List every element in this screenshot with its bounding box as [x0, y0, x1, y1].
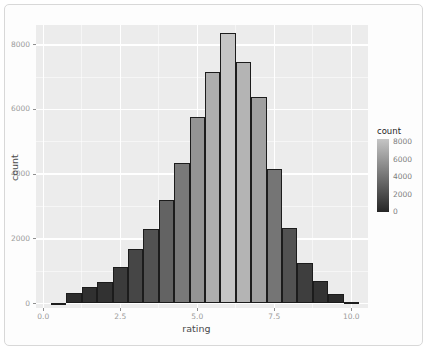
histogram-bar — [328, 294, 343, 303]
histogram-bar — [267, 169, 282, 303]
histogram-bar — [143, 229, 158, 303]
y-tick-label: 6000 — [4, 105, 30, 113]
plot-panel — [36, 25, 368, 308]
histogram-bar — [205, 72, 220, 304]
legend-tick-label: 6000 — [393, 156, 412, 164]
x-tick-mark — [351, 308, 352, 311]
legend-tick-label: 0 — [393, 208, 398, 216]
y-tick-mark — [33, 303, 36, 304]
x-tick-mark — [120, 308, 121, 311]
x-tick-label: 7.5 — [268, 313, 280, 321]
histogram-bar — [82, 287, 97, 304]
y-tick-mark — [33, 109, 36, 110]
histogram-bar — [51, 303, 66, 305]
y-tick-mark — [33, 238, 36, 239]
histogram-bar — [282, 228, 297, 303]
major-gridline — [43, 25, 44, 308]
x-tick-label: 2.5 — [114, 313, 126, 321]
histogram-bar — [236, 62, 251, 304]
major-gridline — [36, 109, 368, 110]
histogram-bar — [66, 293, 81, 304]
legend-title: count — [377, 126, 401, 136]
legend-tick-label: 2000 — [393, 191, 412, 199]
x-tick-mark — [197, 308, 198, 311]
major-gridline — [351, 25, 352, 308]
histogram-bar — [159, 200, 174, 303]
x-tick-mark — [274, 308, 275, 311]
histogram-bar — [113, 267, 128, 304]
legend-gradient-bar — [377, 139, 389, 212]
x-tick-label: 0.0 — [37, 313, 49, 321]
screenshot-root: { "chart_data": { "type": "bar", "subtyp… — [0, 0, 427, 350]
histogram-bar — [220, 33, 235, 303]
y-tick-label: 8000 — [4, 41, 30, 49]
histogram-bar — [128, 249, 143, 304]
legend-tick-label: 8000 — [393, 138, 412, 146]
major-gridline — [120, 25, 121, 308]
y-tick-mark — [33, 44, 36, 45]
legend-tick-label: 4000 — [393, 173, 412, 181]
x-tick-label: 10.0 — [343, 313, 360, 321]
y-axis-title: count — [9, 154, 20, 181]
histogram-bar — [251, 97, 266, 304]
histogram-bar — [313, 281, 328, 303]
histogram-bar — [344, 302, 359, 304]
y-tick-label: 0 — [4, 300, 30, 308]
histogram-bar — [97, 282, 112, 303]
y-tick-mark — [33, 174, 36, 175]
minor-gridline — [36, 77, 368, 78]
histogram-bar — [174, 163, 189, 303]
histogram-bar — [297, 263, 312, 303]
y-tick-label: 2000 — [4, 235, 30, 243]
minor-gridline — [81, 25, 82, 308]
x-tick-label: 5.0 — [191, 313, 203, 321]
x-axis-title: rating — [182, 323, 210, 334]
major-gridline — [36, 44, 368, 45]
histogram-bar — [190, 117, 205, 304]
x-tick-mark — [43, 308, 44, 311]
